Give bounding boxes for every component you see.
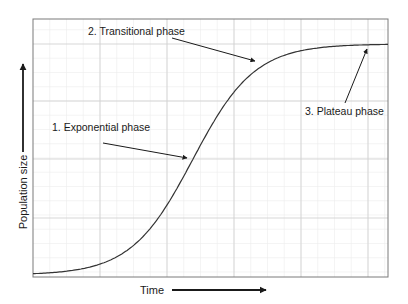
logistic-growth-chart: 1. Exponential phase 2. Transitional pha…	[0, 0, 408, 304]
exponential-phase-arrow	[103, 143, 187, 158]
plateau-phase-label: 3. Plateau phase	[305, 105, 384, 117]
x-axis-label: Time	[140, 284, 164, 296]
annotation-plateau: 3. Plateau phase	[305, 49, 384, 117]
transitional-phase-label: 2. Transitional phase	[88, 25, 185, 37]
y-axis-label: Population size	[17, 155, 29, 230]
plateau-phase-arrow	[345, 49, 367, 103]
exponential-phase-label: 1. Exponential phase	[52, 121, 150, 133]
transitional-phase-arrow	[172, 38, 255, 61]
minor-gridlines	[33, 19, 388, 277]
annotation-transitional: 2. Transitional phase	[88, 25, 255, 61]
